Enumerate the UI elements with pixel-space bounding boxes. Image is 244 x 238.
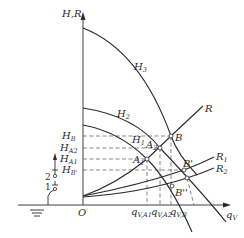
ground-level-icon (30, 210, 44, 216)
label-R2: R2 (215, 163, 228, 176)
xtick-qA2: qV,A2 (151, 206, 172, 219)
point-Bdoubleprime (170, 184, 174, 188)
label-Bprime: B' (182, 158, 193, 169)
point-A2 (158, 146, 162, 150)
label-A1: A1 (132, 154, 144, 167)
flow-arrow-icon (53, 153, 57, 160)
guide-qBpp (187, 178, 194, 205)
valve-label-2: 2 (45, 172, 51, 182)
pump-characteristic-diagram: 1 2 H,R O qV H3 H2 H1 R R1 R2 A1 A2 B B'… (0, 0, 244, 238)
label-A2: A2 (145, 139, 157, 152)
point-Bdoubleprime-2 (185, 176, 189, 180)
y-axis-label: H,R (61, 8, 82, 19)
xtick-qA1: qV,A1 (131, 206, 152, 219)
x-axis-label: qV (226, 209, 238, 222)
point-A1 (145, 157, 149, 161)
label-B: B (174, 132, 182, 143)
label-H3: H3 (133, 61, 147, 74)
label-R: R (204, 103, 213, 114)
label-Bdoubleprime: B'' (174, 187, 188, 198)
xtick-qB: qV,B (170, 206, 187, 219)
curve-R1 (83, 157, 214, 196)
valve-label-1: 1 (45, 182, 51, 192)
point-B (169, 134, 173, 138)
origin-label: O (78, 207, 86, 218)
x-axis-arrow-icon (223, 203, 231, 208)
